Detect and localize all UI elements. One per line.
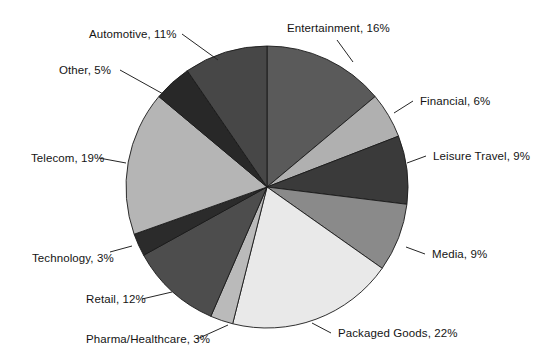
leader-line-automotive <box>182 34 218 60</box>
leader-line-leisure-travel <box>407 156 426 163</box>
leader-line-financial <box>394 101 413 113</box>
slice-label-automotive: Automotive, 11% <box>89 28 177 41</box>
slice-label-other: Other, 5% <box>59 64 111 77</box>
slice-label-telecom: Telecom, 19% <box>31 152 104 165</box>
slice-label-entertainment: Entertainment, 16% <box>287 22 390 35</box>
slice-label-leisure-travel: Leisure Travel, 9% <box>433 150 530 163</box>
slice-label-technology: Technology, 3% <box>32 252 114 265</box>
slice-label-financial: Financial, 6% <box>420 95 490 108</box>
pie-chart-canvas <box>0 0 539 361</box>
pie-chart: Entertainment, 16%Financial, 6%Leisure T… <box>0 0 539 361</box>
slice-label-packaged-goods: Packaged Goods, 22% <box>338 327 458 340</box>
slice-label-media: Media, 9% <box>432 248 487 261</box>
leader-line-retail <box>142 292 172 299</box>
leader-line-media <box>406 247 425 254</box>
leader-line-other <box>120 70 165 95</box>
leader-line-entertainment <box>337 40 353 62</box>
slice-label-retail: Retail, 12% <box>86 293 146 306</box>
pie-slices-group <box>126 46 408 328</box>
slice-label-pharma-healthcare: Pharma/Healthcare, 3% <box>86 333 210 346</box>
leader-line-packaged-goods <box>312 323 331 333</box>
